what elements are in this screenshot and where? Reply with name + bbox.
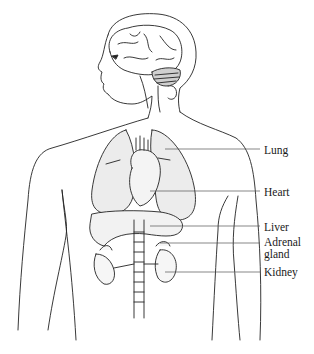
liver xyxy=(90,211,183,246)
label-lung: Lung xyxy=(264,144,288,156)
anatomy-diagram xyxy=(0,0,314,354)
label-kidney: Kidney xyxy=(264,266,298,278)
adrenal-gland xyxy=(156,242,170,247)
adrenal-gland xyxy=(100,246,112,251)
label-heart: Heart xyxy=(264,186,290,198)
kidneys xyxy=(94,242,176,285)
label-liver: Liver xyxy=(264,221,289,233)
label-adrenal-gland: Adrenal gland xyxy=(264,236,301,260)
